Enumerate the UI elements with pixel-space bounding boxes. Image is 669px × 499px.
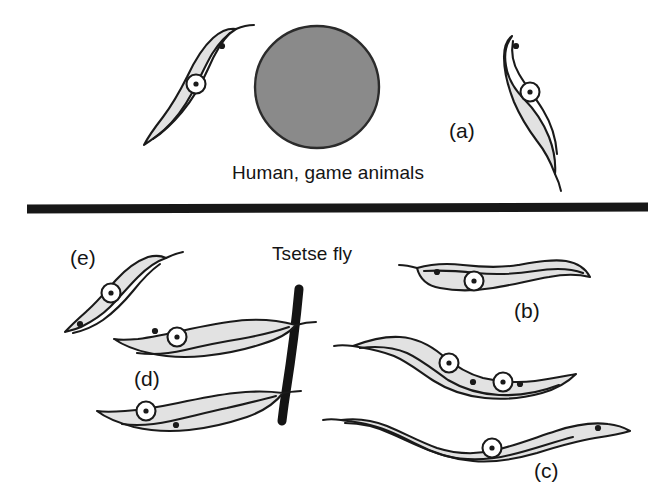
tsetse-gut-wall — [282, 289, 299, 421]
panel-label-d: (d) — [134, 367, 160, 391]
trypanosome-stage-c — [323, 419, 630, 461]
kinetoplast-icon — [152, 328, 158, 334]
trypanosome-host-right — [504, 36, 561, 191]
panel-label-a: (a) — [449, 119, 475, 143]
panel-label-e: (e) — [70, 246, 96, 270]
host-section-caption: Human, game animals — [232, 162, 424, 184]
panel-label-c: (c) — [534, 459, 559, 483]
panel-label-b: (b) — [514, 299, 540, 323]
cell-body — [417, 260, 590, 290]
flagellum — [236, 25, 254, 29]
nucleolus-icon — [500, 379, 505, 384]
kinetoplast-icon — [595, 425, 601, 431]
trypanosome-stage-d-lower — [97, 391, 301, 431]
flagellum — [166, 252, 183, 258]
nucleolus-icon — [143, 408, 148, 413]
trypanosome-stage-d-upper — [114, 320, 316, 357]
trypanosome-stage-b — [399, 260, 590, 290]
host-vector-divider-bar — [27, 207, 648, 209]
kinetoplast-icon — [513, 43, 519, 49]
kinetoplast-icon — [517, 381, 523, 387]
nucleolus-icon — [489, 445, 494, 450]
flagellum — [323, 419, 341, 420]
nucleolus-icon — [108, 290, 113, 295]
trypanosome-life-cycle-figure: Human, game animals Tsetse fly (a)(b)(c)… — [0, 0, 669, 499]
kinetoplast-icon — [470, 379, 476, 385]
trypanosome-host-left — [144, 25, 254, 145]
nucleolus-icon — [193, 81, 198, 86]
kinetoplast-icon — [219, 43, 225, 49]
kinetoplast-icon — [173, 422, 179, 428]
host-blood-cell — [255, 26, 379, 148]
nucleolus-icon — [527, 89, 532, 94]
vector-section-caption: Tsetse fly — [272, 243, 352, 265]
nucleolus-icon — [446, 360, 451, 365]
nucleolus-icon — [471, 278, 476, 283]
flagellum — [334, 345, 353, 346]
flagellum — [399, 265, 417, 268]
flagellum — [555, 174, 561, 191]
nucleolus-icon — [174, 334, 179, 339]
trypanosome-dividing-form — [334, 337, 576, 399]
kinetoplast-icon — [77, 321, 83, 327]
kinetoplast-icon — [434, 269, 440, 275]
cell-body — [114, 320, 296, 357]
